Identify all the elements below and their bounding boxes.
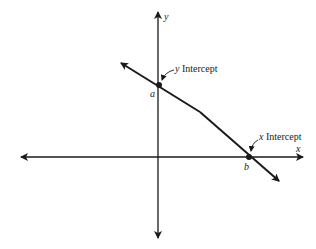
x-intercept-point bbox=[246, 154, 252, 160]
x-intercept-callout: x Intercept bbox=[258, 131, 302, 142]
y-intercept-callout: y Intercept bbox=[174, 63, 218, 74]
y-axis-label: y bbox=[163, 11, 169, 22]
point-a-label: a bbox=[150, 88, 155, 99]
y-intercept-callout-arrow bbox=[162, 70, 174, 80]
x-intercept-callout-arrow bbox=[251, 140, 258, 151]
point-b-label: b bbox=[244, 161, 249, 172]
y-intercept-point bbox=[156, 82, 162, 88]
x-axis-label: x bbox=[295, 143, 301, 154]
intercept-diagram: y x a b y Intercept x Intercept bbox=[0, 0, 316, 249]
linear-function-line-lower bbox=[200, 112, 279, 181]
